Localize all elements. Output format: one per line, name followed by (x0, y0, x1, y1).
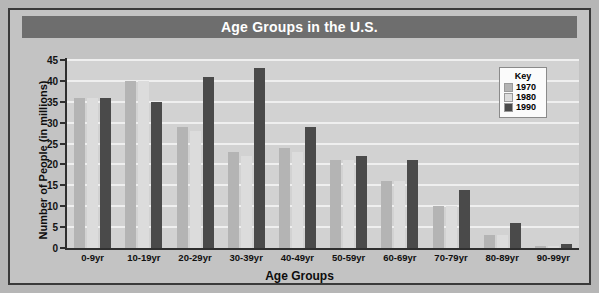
legend: Key 197019801990 (499, 67, 547, 118)
y-axis-tick-mark (60, 122, 65, 124)
y-axis-tick-mark (60, 101, 65, 103)
legend-item-label: 1990 (516, 103, 536, 112)
bar-group (330, 60, 367, 248)
category-label: 30-39yr (230, 252, 263, 263)
bar-group (74, 60, 111, 248)
legend-item-1990: 1990 (504, 103, 542, 112)
category-label: 60-69yr (383, 252, 416, 263)
category-label: 0-9yr (81, 252, 104, 263)
chart-screenshot: Age Groups in the U.S. Number of People … (0, 0, 599, 293)
bar-group (125, 60, 162, 248)
y-axis-tick-label: 10 (40, 201, 58, 212)
bar-group (228, 60, 265, 248)
bar-1980-50-59yr (343, 160, 354, 248)
y-axis-line (65, 58, 67, 250)
category-label: 80-89yr (486, 252, 519, 263)
legend-item-1970: 1970 (504, 83, 542, 92)
y-axis-tick-mark (60, 184, 65, 186)
y-axis-tick-label: 0 (40, 243, 58, 254)
bar-1970-80-89yr (484, 235, 495, 248)
category-label: 10-19yr (127, 252, 160, 263)
y-axis-tick-mark (60, 80, 65, 82)
bar-1970-40-49yr (279, 148, 290, 248)
bar-1970-20-29yr (177, 127, 188, 248)
bar-1990-70-79yr (459, 190, 470, 248)
bar-1970-70-79yr (433, 206, 444, 248)
bar-1980-60-69yr (394, 181, 405, 248)
bar-1990-0-9yr (100, 98, 111, 248)
y-axis-tick-label: 20 (40, 159, 58, 170)
y-axis-tick-label: 35 (40, 96, 58, 107)
bar-1970-0-9yr (74, 98, 85, 248)
y-axis-tick-label: 5 (40, 222, 58, 233)
bar-group (381, 60, 418, 248)
bar-1970-60-69yr (381, 181, 392, 248)
category-label: 40-49yr (281, 252, 314, 263)
y-axis-tick-label: 30 (40, 117, 58, 128)
y-axis-tick-mark (60, 247, 65, 249)
page-title: Age Groups in the U.S. (221, 19, 378, 35)
bar-1970-10-19yr (125, 81, 136, 248)
bar-1970-30-39yr (228, 152, 239, 248)
category-label: 70-79yr (434, 252, 467, 263)
category-label: 50-59yr (332, 252, 365, 263)
bar-1990-80-89yr (510, 223, 521, 248)
bar-group (177, 60, 214, 248)
bar-1980-30-39yr (241, 156, 252, 248)
legend-item-label: 1970 (516, 83, 536, 92)
bar-1980-20-29yr (190, 131, 201, 248)
y-axis-tick-mark (60, 205, 65, 207)
bar-group (433, 60, 470, 248)
y-axis-tick-label: 25 (40, 138, 58, 149)
y-axis-tick-mark (60, 226, 65, 228)
x-axis-label: Age Groups (10, 269, 589, 283)
chart-title-bar: Age Groups in the U.S. (22, 16, 577, 38)
bar-1980-70-79yr (446, 206, 457, 248)
y-axis-tick-label: 15 (40, 180, 58, 191)
bar-1980-0-9yr (87, 98, 98, 248)
bar-1980-80-89yr (497, 235, 508, 248)
legend-swatch-icon (504, 103, 513, 112)
y-axis-tick-label: 45 (40, 55, 58, 66)
bar-1990-30-39yr (254, 68, 265, 248)
y-axis-tick-label: 40 (40, 75, 58, 86)
bar-1990-60-69yr (407, 160, 418, 248)
bar-1970-50-59yr (330, 160, 341, 248)
legend-item-1980: 1980 (504, 93, 542, 102)
category-label: 90-99yr (537, 252, 570, 263)
y-axis-tick-mark (60, 163, 65, 165)
legend-swatch-icon (504, 83, 513, 92)
bar-group (279, 60, 316, 248)
chart-frame: Age Groups in the U.S. Number of People … (8, 8, 591, 285)
bar-1980-40-49yr (292, 152, 303, 248)
category-label: 20-29yr (178, 252, 211, 263)
legend-title: Key (504, 71, 542, 81)
y-axis-tick-mark (60, 143, 65, 145)
bar-1980-10-19yr (138, 81, 149, 248)
legend-item-label: 1980 (516, 93, 536, 102)
bar-1990-10-19yr (151, 102, 162, 248)
y-axis-tick-mark (60, 59, 65, 61)
bar-1990-40-49yr (305, 127, 316, 248)
legend-swatch-icon (504, 93, 513, 102)
x-axis-line (65, 248, 579, 250)
legend-entries: 197019801990 (504, 83, 542, 112)
bar-1990-20-29yr (203, 77, 214, 248)
bar-1990-50-59yr (356, 156, 367, 248)
